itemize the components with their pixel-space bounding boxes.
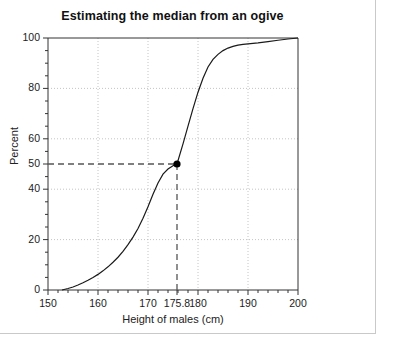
y-tick-label: 20 — [2, 233, 40, 245]
y-tick-label: 80 — [2, 81, 40, 93]
x-tick-label: 150 — [28, 297, 68, 309]
x-tick-label: 160 — [78, 297, 118, 309]
x-tick-label: 190 — [228, 297, 268, 309]
y-tick-label: 0 — [2, 283, 40, 295]
median-value-label: 175.8 — [157, 297, 197, 309]
x-tick-label: 200 — [278, 297, 318, 309]
y-tick-label: 100 — [2, 31, 40, 43]
y-tick-label: 40 — [2, 182, 40, 194]
median-marker-point — [173, 160, 180, 167]
axis-ticks — [43, 38, 298, 295]
y-tick-label: 60 — [2, 132, 40, 144]
chart-figure: Estimating the median from an ogive Perc… — [0, 0, 405, 347]
y-tick-label: 50 — [2, 157, 40, 169]
plot-area — [0, 0, 405, 347]
